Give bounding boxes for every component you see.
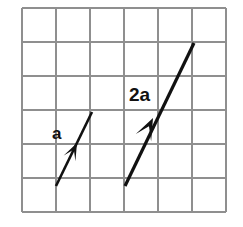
vector-a-label: a — [52, 124, 62, 143]
figure-background — [0, 0, 243, 227]
vector-figure: a 2a — [0, 0, 243, 227]
vector-2a-label: 2a — [129, 84, 151, 105]
vector-diagram-canvas: a 2a — [0, 0, 243, 227]
